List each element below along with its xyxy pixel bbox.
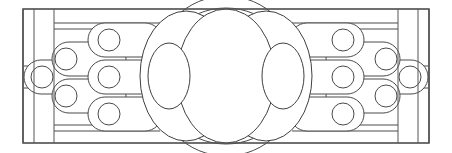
stadium-mid-lower-left-pivot-circle — [55, 85, 77, 107]
stadium-mid-lower-right-pivot-circle — [375, 85, 397, 107]
stadium-outer-bot-left-pivot-circle — [98, 103, 120, 125]
technical-line-drawing — [0, 0, 452, 153]
stadium-outer-mid-left-pivot-circle — [98, 66, 120, 88]
stadium-mid-upper-left-pivot-circle — [55, 48, 77, 70]
stadium-outer-bot-right-pivot-circle — [332, 103, 354, 125]
stadium-outer-mid-right-pivot-circle — [332, 66, 354, 88]
stadium-outer-top-right-pivot-circle — [332, 29, 354, 51]
center-ellipse-group — [140, 9, 312, 143]
inner-ellipse-right — [262, 43, 304, 109]
center-ellipse-main — [177, 9, 275, 143]
stadium-outer-top-left-pivot-circle — [98, 29, 120, 51]
stadium-mid-upper-right-pivot-circle — [375, 48, 397, 70]
inner-ellipse-left — [148, 43, 190, 109]
figure-canvas: Mirror-symmetric technical line drawing … — [0, 0, 452, 153]
